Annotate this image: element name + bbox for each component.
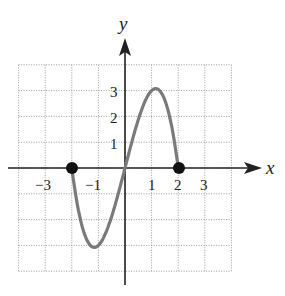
function-graph: y x −3 −1 1 2 3 3 2 1 bbox=[0, 0, 285, 296]
x-axis bbox=[8, 162, 262, 174]
y-tick-2: 2 bbox=[110, 110, 118, 126]
endpoint-left bbox=[66, 162, 78, 174]
y-tick-1: 1 bbox=[110, 136, 118, 152]
y-tick-3: 3 bbox=[110, 84, 118, 100]
x-tick-2: 2 bbox=[174, 177, 182, 193]
x-tick-neg3: −3 bbox=[35, 177, 51, 193]
x-tick-neg1: −1 bbox=[85, 177, 101, 193]
x-tick-1: 1 bbox=[148, 177, 156, 193]
x-axis-label: x bbox=[265, 157, 275, 178]
y-axis-label: y bbox=[117, 13, 128, 34]
endpoint-right bbox=[173, 162, 185, 174]
x-tick-3: 3 bbox=[200, 177, 208, 193]
